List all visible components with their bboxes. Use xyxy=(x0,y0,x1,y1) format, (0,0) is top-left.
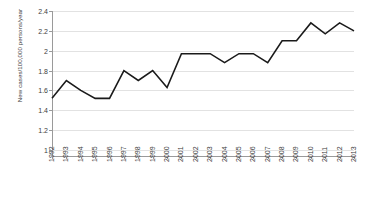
y-tick-label-1.6: 1.6 xyxy=(4,87,48,94)
series-line-group xyxy=(52,11,354,150)
y-tick-label-2: 2 xyxy=(4,47,48,54)
line-chart: New cases/100,000 persons/year 11.21.41.… xyxy=(0,0,365,207)
series-line-new-cases xyxy=(52,23,354,98)
y-tick-label-1.8: 1.8 xyxy=(4,67,48,74)
y-axis-tick-group: 11.21.41.61.822.22.4 xyxy=(0,0,48,207)
y-tick-label-1.4: 1.4 xyxy=(4,107,48,114)
y-tick-label-2.2: 2.2 xyxy=(4,27,48,34)
y-tick-label-2.4: 2.4 xyxy=(4,8,48,15)
y-tick-label-1.2: 1.2 xyxy=(4,127,48,134)
y-tick-label-1: 1 xyxy=(4,147,48,154)
